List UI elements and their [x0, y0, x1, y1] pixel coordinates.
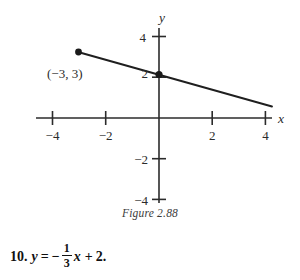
figure-caption: Figure 2.88	[0, 207, 300, 219]
x-tick-label-2: 2	[209, 128, 216, 143]
answer-minus-sign: −	[52, 249, 60, 265]
answer-item-number: 10.	[10, 249, 28, 265]
answer-equals-sign: =	[41, 249, 49, 265]
answer-constant: 2.	[96, 249, 107, 265]
data-point-y-intercept	[155, 71, 162, 78]
answer-plus-sign: +	[85, 249, 93, 265]
answer-equation: 10. y = − 1 3 x + 2.	[10, 243, 106, 271]
x-tick-label-minus4: −4	[46, 128, 60, 143]
answer-variable-x: x	[74, 249, 81, 265]
answer-fraction-one-third: 1 3	[62, 242, 72, 270]
answer-variable-y: y	[32, 249, 38, 265]
y-axis-label: y	[157, 10, 165, 25]
plotted-line	[78, 52, 272, 107]
x-tick-label-minus2: −2	[99, 128, 113, 143]
coordinate-plane-graph: −4 −2 2 4 4 2 −2 −4 x y (−3, 3)	[0, 0, 300, 232]
point-annotation-minus3-3: (−3, 3)	[47, 66, 83, 81]
x-tick-label-4: 4	[262, 128, 269, 143]
fraction-denominator: 3	[62, 257, 72, 270]
y-tick-label-4: 4	[140, 30, 147, 45]
data-point-minus3-3	[75, 49, 82, 56]
fraction-numerator: 1	[62, 242, 72, 255]
figure-container: −4 −2 2 4 4 2 −2 −4 x y (−3, 3) Figure 2…	[0, 0, 300, 280]
y-tick-label-minus2: −2	[134, 152, 148, 167]
y-tick-label-2: 2	[142, 66, 149, 81]
y-tick-label-minus4: −4	[134, 193, 148, 208]
x-axis-label: x	[277, 111, 284, 126]
